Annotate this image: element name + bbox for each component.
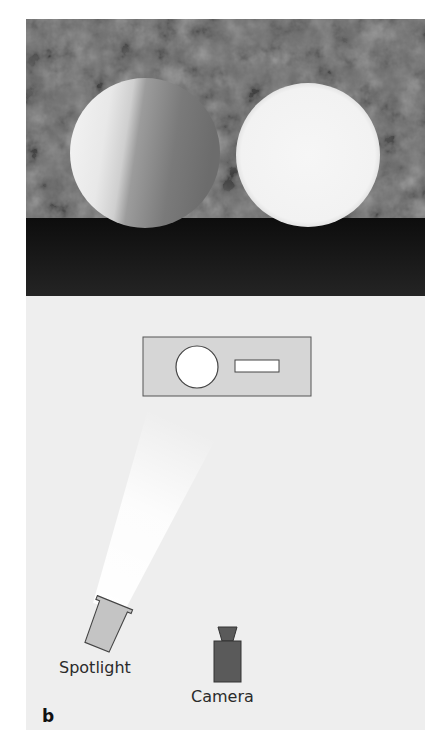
scene-top-view <box>143 337 311 396</box>
spotlight-label: Spotlight <box>59 658 131 677</box>
figure-graphics <box>0 0 448 730</box>
camera-label: Camera <box>191 687 254 706</box>
sphere-top-view-icon <box>176 346 218 388</box>
floor <box>26 218 425 296</box>
right-sphere-bright <box>236 83 380 227</box>
left-sphere-shaded <box>70 78 220 228</box>
scene-box <box>143 337 311 396</box>
camera-icon <box>214 627 241 682</box>
light-beam <box>93 402 232 612</box>
panel-label: b <box>42 706 54 726</box>
disk-top-view-icon <box>235 360 279 372</box>
rendered-scene-photo <box>26 19 425 296</box>
